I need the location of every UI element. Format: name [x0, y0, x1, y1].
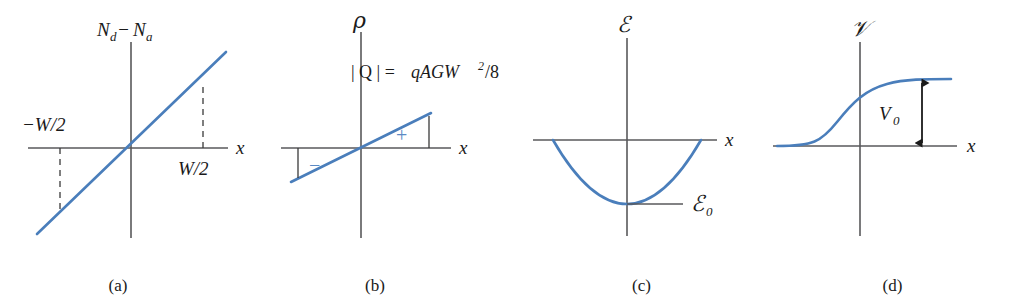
panel-b: ρ x | Q | = qAGW 2 /8 + − (b) [243, 0, 513, 302]
panel-caption-d: (d) [755, 276, 1016, 296]
negative-region-marker: − [309, 154, 320, 176]
min-value-label: ℰ 0 [691, 191, 713, 219]
svg-text:−: − [117, 19, 130, 40]
svg-text:0: 0 [893, 113, 900, 128]
built-in-potential-label: V 0 [879, 103, 900, 128]
svg-text:V: V [879, 103, 893, 124]
svg-text:qAGW: qAGW [411, 62, 461, 82]
svg-text:/8: /8 [485, 62, 499, 82]
panel-caption-b: (b) [243, 276, 513, 296]
panel-a-plot: N d − N a x −W/2 W/2 [0, 0, 260, 260]
tick-label-w-half: W/2 [178, 158, 209, 179]
panel-caption-a: (a) [0, 276, 260, 296]
x-axis-label: x [724, 129, 734, 150]
tick-label-negative-w-half: −W/2 [22, 114, 66, 135]
y-axis-label: N d − N a [96, 19, 153, 44]
y-axis-label: ℰ [617, 12, 633, 37]
svg-text:| Q | =: | Q | = [351, 62, 395, 82]
svg-text:N: N [96, 19, 111, 40]
svg-text:0: 0 [706, 204, 713, 219]
y-axis-label: ρ [352, 8, 366, 33]
svg-text:2: 2 [478, 59, 484, 73]
figure-container: N d − N a x −W/2 W/2 (a) ρ [0, 0, 1016, 302]
panel-c: ℰ x ℰ 0 (c) [505, 0, 770, 302]
panel-caption-c: (c) [505, 276, 770, 296]
x-axis-label: x [458, 137, 468, 158]
panel-a: N d − N a x −W/2 W/2 (a) [0, 0, 260, 302]
panel-d-plot: 𝒱 x V 0 [755, 0, 1016, 260]
svg-text:ℰ: ℰ [691, 191, 707, 216]
y-axis-label: 𝒱 [851, 16, 876, 41]
panel-d: 𝒱 x V 0 (d) [755, 0, 1016, 302]
charge-equation: | Q | = qAGW 2 /8 [351, 59, 499, 82]
svg-text:a: a [146, 29, 153, 44]
panel-b-plot: ρ x | Q | = qAGW 2 /8 + − [243, 0, 513, 260]
potential-sigmoid-curve [777, 79, 951, 146]
svg-text:N: N [132, 19, 147, 40]
x-axis-label: x [966, 135, 976, 156]
panel-c-plot: ℰ x ℰ 0 [505, 0, 770, 260]
svg-text:d: d [110, 29, 117, 44]
positive-region-marker: + [396, 124, 407, 146]
